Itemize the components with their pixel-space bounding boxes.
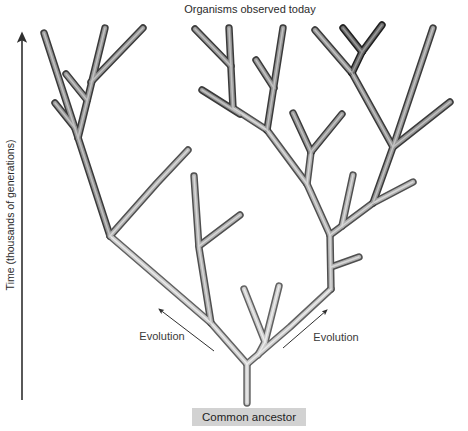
center-spine-outline (233, 108, 330, 235)
left-mid-branch-highlight (110, 150, 188, 236)
evolution-label-left: Evolution (139, 330, 184, 342)
right-v-left-highlight (244, 289, 265, 342)
diagram-title: Organisms observed today (140, 3, 360, 15)
annotation-arrows (22, 34, 327, 400)
dark-y-left-arm-highlight (343, 28, 362, 52)
left-upper-stub-highlight (66, 74, 87, 100)
center-y-left-highlight (293, 113, 311, 152)
evolution-label-right: Evolution (313, 331, 358, 343)
time-axis-label: Time (thousands of generations) (4, 140, 16, 291)
center-spine (233, 108, 330, 235)
center-y-right-highlight (311, 114, 342, 152)
center-left-arm-highlight (195, 29, 231, 66)
center-tall-stub-highlight (256, 60, 274, 88)
left-upper-branch-highlight (78, 28, 105, 138)
right-diagonal-highlight (373, 28, 433, 203)
evolution-tree-diagram: Organisms observed today Time (thousands… (0, 0, 468, 431)
center-spine-highlight (233, 108, 330, 235)
left-vertical-stub-highlight (199, 215, 240, 246)
tree-branches (44, 25, 450, 403)
dark-y-right-arm-highlight (362, 25, 382, 52)
tree-figure-canvas (0, 0, 468, 431)
right-vertical-highlight (330, 235, 331, 289)
common-ancestor-label: Common ancestor (192, 408, 306, 426)
